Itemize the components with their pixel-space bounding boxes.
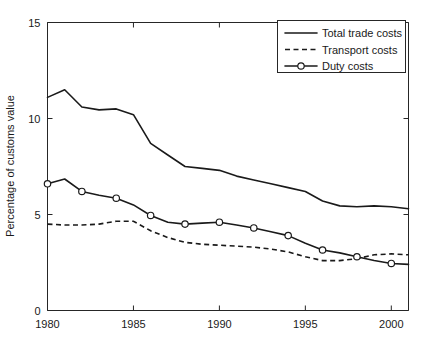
x-tick-label: 2000 xyxy=(379,318,403,330)
y-axis-title: Percentage of customs value xyxy=(4,95,16,237)
x-tick-label: 1995 xyxy=(293,318,317,330)
data-point-marker xyxy=(251,225,257,231)
y-tick-label: 5 xyxy=(34,209,40,221)
chart-figure: 05101519801985199019952000 Percentage of… xyxy=(0,0,423,342)
y-tick-label: 0 xyxy=(34,305,40,317)
data-point-marker xyxy=(319,247,325,253)
data-point-marker xyxy=(147,212,153,218)
legend-label: Duty costs xyxy=(322,60,374,72)
legend-label: Transport costs xyxy=(322,44,398,56)
line-chart: 05101519801985199019952000 Percentage of… xyxy=(0,0,423,342)
y-tick-label: 15 xyxy=(28,17,40,29)
data-point-marker xyxy=(216,219,222,225)
series-line-total-trade-costs xyxy=(48,90,409,209)
series-line-duty-costs xyxy=(48,179,409,264)
data-point-marker xyxy=(285,232,291,238)
data-point-marker xyxy=(354,254,360,260)
data-point-marker xyxy=(113,195,119,201)
legend: Total trade costsTransport costsDuty cos… xyxy=(278,21,406,73)
legend-label: Total trade costs xyxy=(322,27,403,39)
data-point-marker xyxy=(44,181,50,187)
data-point-marker xyxy=(79,188,85,194)
data-point-marker xyxy=(182,221,188,227)
x-tick-label: 1980 xyxy=(35,318,59,330)
x-tick-label: 1985 xyxy=(121,318,145,330)
legend-marker-icon xyxy=(298,63,304,69)
data-point-marker xyxy=(388,260,394,266)
data-series-group xyxy=(44,90,408,267)
x-tick-label: 1990 xyxy=(207,318,231,330)
y-tick-label: 10 xyxy=(28,113,40,125)
